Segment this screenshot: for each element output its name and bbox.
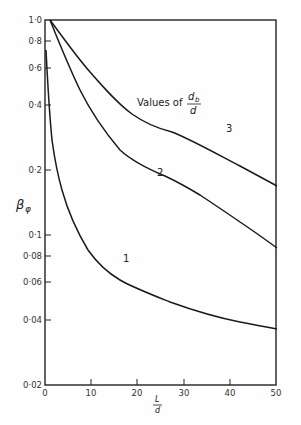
- curve-1-label: 1: [123, 253, 129, 264]
- x-tick-label: 0: [42, 388, 47, 398]
- x-label-numerator: L: [155, 395, 159, 404]
- y-label-phi: φ: [25, 204, 31, 214]
- y-tick-label: 0·8: [28, 36, 42, 46]
- x-tick-label: 40: [225, 388, 236, 398]
- y-tick-label: 0·1: [28, 230, 42, 240]
- legend-denominator: d: [190, 105, 197, 116]
- y-tick-label: 0·4: [28, 100, 42, 110]
- curve-3-label: 3: [226, 123, 232, 134]
- y-label-beta: β: [15, 197, 24, 212]
- legend: Values of d b d: [137, 91, 201, 116]
- legend-numerator: d: [188, 91, 195, 102]
- y-tick-label: 0·6: [28, 63, 42, 73]
- x-tick-label: 30: [179, 388, 190, 398]
- x-tick-label: 50: [271, 388, 282, 398]
- curve-2-label: 2: [157, 167, 163, 178]
- y-tick-label: 0·02: [23, 380, 42, 390]
- curve-2: [50, 20, 277, 248]
- y-tick-label: 0·06: [23, 277, 42, 287]
- x-tick-label: 10: [86, 388, 97, 398]
- x-label-denominator: d: [155, 406, 161, 415]
- x-axis: 01020304050: [42, 379, 281, 398]
- legend-prefix: Values of: [137, 97, 183, 108]
- plot-frame: [45, 20, 276, 385]
- x-axis-title: L d: [153, 395, 162, 415]
- x-tick-label: 20: [132, 388, 143, 398]
- y-axis-title: β φ: [15, 197, 31, 214]
- y-tick-label: 0·04: [23, 315, 42, 325]
- legend-subscript: b: [195, 96, 200, 104]
- chart: 1·00·80·60·40·20·10·080·060·040·02 01020…: [0, 0, 301, 425]
- y-tick-label: 0·08: [23, 251, 42, 261]
- y-tick-label: 0·2: [28, 165, 42, 175]
- y-tick-label: 1·0: [28, 15, 42, 25]
